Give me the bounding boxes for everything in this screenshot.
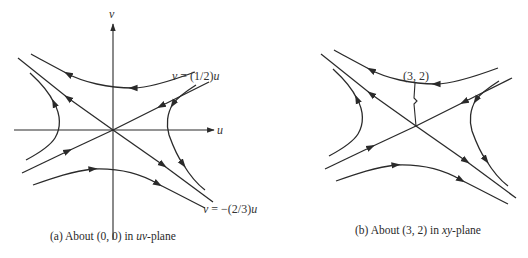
panel-a-uv-plane: u v v = (1/2)u v = −(2/3)u (a) About (0,… (14, 7, 257, 243)
line-label-v-neg-two-thirds-u: v = −(2/3)u (203, 202, 257, 216)
u-axis-label: u (217, 123, 223, 137)
equilibrium-point-label: (3, 2) (403, 69, 429, 83)
point-leader-line (414, 83, 417, 126)
caption-a: (a) About (0, 0) in uv-plane (50, 230, 176, 243)
line-label-v-half-u: v = (1/2)u (172, 69, 219, 83)
phase-portraits: u v v = (1/2)u v = −(2/3)u (a) About (0,… (0, 0, 528, 258)
v-axis-label: v (109, 7, 115, 21)
caption-b: (b) About (3, 2) in xy-plane (355, 224, 481, 237)
panel-b-xy-plane: (3, 2) (b) About (3, 2) in xy-plane (321, 50, 516, 237)
